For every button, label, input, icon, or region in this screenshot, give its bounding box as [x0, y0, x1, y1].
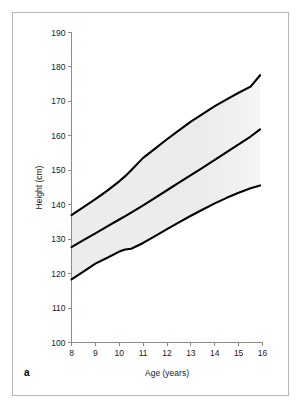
growth-chart-figure: 1001101201301401501601701801908910111213… — [0, 0, 301, 408]
x-tick-label: 14 — [210, 348, 220, 358]
chart-plot-area: 1001101201301401501601701801908910111213… — [0, 0, 301, 408]
y-axis-title: Height (cm) — [34, 165, 44, 209]
y-tick-label: 190 — [51, 28, 65, 38]
x-tick-label: 13 — [186, 348, 196, 358]
x-axis-title: Age (years) — [145, 368, 189, 378]
x-tick-label: 12 — [162, 348, 172, 358]
y-tick-label: 160 — [51, 131, 65, 141]
y-tick-label: 180 — [51, 62, 65, 72]
x-tick-label: 10 — [115, 348, 125, 358]
x-tick-label: 16 — [258, 348, 268, 358]
centile-band — [72, 75, 261, 279]
y-tick-label: 110 — [52, 303, 66, 313]
x-tick-label: 15 — [234, 348, 244, 358]
x-tick-label: 8 — [69, 348, 74, 358]
y-tick-label: 140 — [51, 200, 65, 210]
x-tick-label: 9 — [93, 348, 98, 358]
y-tick-label: 170 — [51, 96, 65, 106]
y-tick-label: 150 — [51, 165, 65, 175]
y-tick-label: 120 — [51, 269, 65, 279]
panel-label: a — [24, 368, 30, 378]
y-tick-label: 130 — [51, 234, 65, 244]
y-tick-label: 100 — [51, 338, 65, 348]
x-tick-label: 11 — [139, 348, 148, 358]
